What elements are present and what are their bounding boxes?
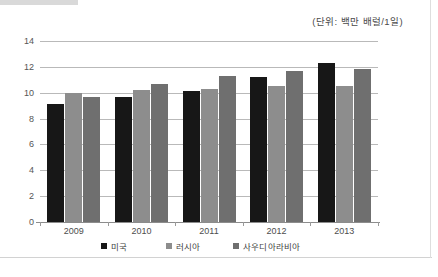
bar-group [115, 41, 168, 222]
legend-item[interactable]: 미국 [101, 240, 127, 252]
bar [83, 97, 100, 222]
y-axis-tick-label: 6 [29, 140, 34, 149]
bar-group [318, 41, 371, 222]
bar-group [183, 41, 236, 222]
legend-label: 미국 [111, 240, 127, 252]
x-axis-tick-mark [40, 222, 41, 226]
x-axis-tick-mark [175, 222, 176, 226]
bar [354, 69, 371, 222]
x-axis-tick-mark [243, 222, 244, 226]
bar-group [250, 41, 303, 222]
bar [47, 104, 64, 222]
bar [65, 93, 82, 222]
x-axis-baseline [36, 222, 380, 223]
x-axis-category-label: 2012 [247, 226, 307, 236]
x-axis-tick-mark [108, 222, 109, 226]
y-axis-tick-label: 14 [24, 37, 34, 46]
bar [268, 86, 285, 222]
bar [336, 86, 353, 222]
x-axis-tick-mark [310, 222, 311, 226]
x-axis-category-label: 2013 [314, 226, 374, 236]
chart-unit-note: (단위: 백만 배럴/1일) [312, 14, 403, 28]
y-axis-tick-label: 10 [24, 88, 34, 97]
bar-chart-figure: (단위: 백만 배럴/1일) 02468101214 2009201020112… [0, 0, 438, 277]
bar [133, 90, 150, 222]
y-axis-tick-label: 8 [29, 114, 34, 123]
legend-label: 사우디아라비아 [243, 240, 300, 252]
bar-group [47, 41, 100, 222]
bar [219, 76, 236, 222]
legend-swatch-icon [233, 243, 239, 249]
legend-swatch-icon [166, 243, 172, 249]
plot-area [40, 41, 378, 222]
bar [286, 71, 303, 222]
bar [115, 97, 132, 222]
bar [250, 77, 267, 222]
legend-label: 러시아 [176, 240, 201, 252]
legend-swatch-icon [101, 243, 107, 249]
bar [318, 63, 335, 222]
y-axis-tick-labels: 02468101214 [14, 41, 34, 222]
y-axis-tick-label: 0 [29, 218, 34, 227]
x-axis-category-label: 2010 [111, 226, 171, 236]
y-axis-tick-label: 4 [29, 166, 34, 175]
y-axis-tick-label: 2 [29, 192, 34, 201]
bar [183, 91, 200, 222]
bar [151, 84, 168, 222]
x-axis-category-label: 2011 [179, 226, 239, 236]
legend-item[interactable]: 사우디아라비아 [233, 240, 300, 252]
chart-legend: 미국러시아사우디아라비아 [0, 240, 438, 254]
bar [201, 89, 218, 222]
y-axis-tick-label: 12 [24, 62, 34, 71]
legend-item[interactable]: 러시아 [166, 240, 201, 252]
x-axis-tick-mark [378, 222, 379, 226]
x-axis-category-label: 2009 [44, 226, 104, 236]
